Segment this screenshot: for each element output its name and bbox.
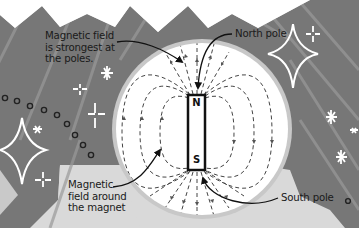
south-pole-letter: S [188, 154, 205, 165]
north-pole-letter: N [188, 97, 205, 108]
label-line: Magnetic field [45, 30, 115, 42]
label-line: the magnet [68, 202, 127, 214]
label-line: is strongest at [45, 42, 115, 54]
label-strongest-at-poles: Magnetic field is strongest at the poles… [45, 30, 115, 65]
label-field-around-magnet: Magnetic field around the magnet [68, 179, 127, 214]
label-north-pole: North pole [235, 28, 287, 40]
magnet-field-diagram: N S Magnetic field is strongest at the p… [0, 0, 359, 228]
label-line: the poles. [45, 53, 115, 65]
label-line: field around [68, 191, 127, 203]
label-line: Magnetic [68, 179, 127, 191]
label-south-pole: South pole [281, 192, 334, 204]
